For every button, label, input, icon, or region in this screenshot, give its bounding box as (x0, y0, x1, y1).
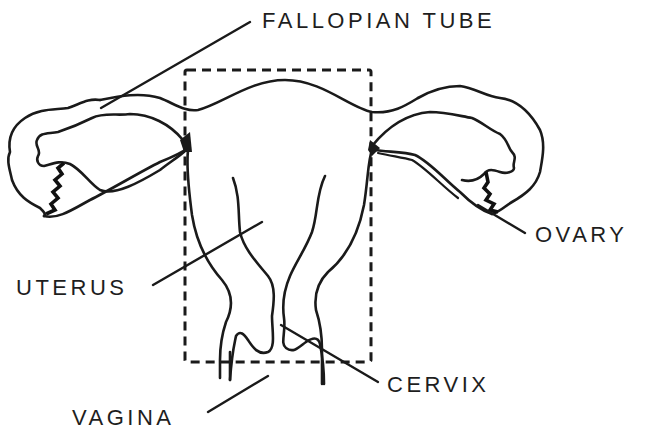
uterus-cavity-right (283, 176, 325, 384)
left-ovary-zigzag (46, 163, 64, 214)
right-tube-outer (418, 86, 543, 214)
uterus-leader (153, 222, 262, 285)
anatomy-diagram: FALLOPIAN TUBE OVARY UTERUS CERVIX VAGIN… (0, 0, 650, 439)
vagina-leader (208, 376, 268, 412)
right-ovary-zigzag (484, 172, 498, 212)
fallopian-tube-leader (101, 22, 250, 108)
left-tube-inner (36, 114, 186, 191)
left-tube-lower (44, 148, 188, 217)
uterus-left-wall (187, 150, 230, 378)
label-fallopian-tube: FALLOPIAN TUBE (262, 10, 495, 32)
label-vagina: VAGINA (72, 407, 175, 429)
right-tube-lower-inner (378, 153, 458, 198)
right-tube-lower (374, 150, 492, 214)
uterus-cavity-left (230, 178, 274, 380)
cervix-leader (281, 325, 378, 382)
uterus-region-dashed-box (185, 70, 371, 362)
label-ovary: OVARY (535, 224, 628, 246)
label-cervix: CERVIX (387, 374, 490, 396)
right-tube-inner (372, 112, 515, 181)
left-tube-outer (8, 100, 100, 216)
label-uterus: UTERUS (16, 277, 127, 299)
diagram-drawing (0, 0, 650, 439)
